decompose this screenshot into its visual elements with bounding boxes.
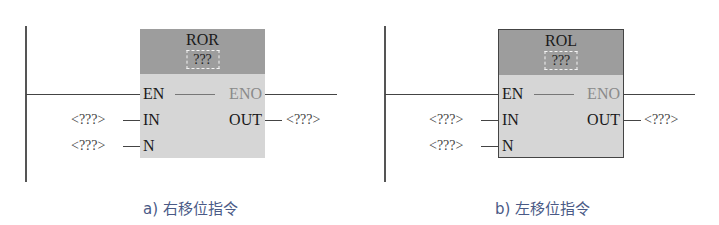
in-pin: IN	[502, 111, 519, 129]
out-operand[interactable]: <???>	[644, 112, 678, 128]
out-pin: OUT	[587, 111, 620, 129]
n-pin: N	[143, 137, 155, 155]
in-operand[interactable]: <???>	[71, 112, 105, 128]
en-eno-link	[534, 94, 574, 95]
eno-pin: ENO	[229, 85, 262, 103]
in-operand[interactable]: <???>	[429, 112, 463, 128]
caption: b) 左移位指令	[495, 197, 590, 218]
in-input-wire	[123, 120, 140, 121]
block-header: ROL ???	[499, 30, 623, 75]
block-header: ROR ???	[140, 29, 265, 74]
en-input-wire	[26, 94, 140, 95]
rol-diagram: <???> <???> ROL ??? EN ENO IN OUT N <???…	[359, 0, 718, 225]
n-operand[interactable]: <???>	[71, 138, 105, 154]
en-eno-link	[175, 94, 215, 95]
n-input-wire	[481, 146, 498, 147]
rol-function-block[interactable]: ROL ??? EN ENO IN OUT N	[498, 29, 624, 158]
in-pin: IN	[143, 111, 160, 129]
ror-diagram: <???> <???> ROR ??? EN ENO IN OUT N <???…	[0, 0, 359, 225]
n-operand[interactable]: <???>	[429, 138, 463, 154]
n-input-wire	[123, 146, 140, 147]
en-pin: EN	[502, 85, 523, 103]
n-pin: N	[502, 137, 514, 155]
left-power-rail	[25, 26, 27, 182]
data-type-param[interactable]: ???	[545, 51, 578, 70]
eno-output-wire	[624, 94, 695, 95]
in-input-wire	[481, 120, 498, 121]
instruction-name: ROR	[140, 30, 265, 50]
out-pin: OUT	[229, 111, 262, 129]
instruction-name: ROL	[499, 31, 623, 51]
en-input-wire	[385, 94, 498, 95]
ror-function-block[interactable]: ROR ??? EN ENO IN OUT N	[140, 29, 265, 158]
left-power-rail	[384, 26, 386, 182]
caption: a) 右移位指令	[143, 197, 238, 218]
out-output-wire	[265, 120, 282, 121]
eno-output-wire	[265, 94, 337, 95]
out-output-wire	[624, 120, 641, 121]
data-type-param[interactable]: ???	[186, 50, 219, 69]
en-pin: EN	[143, 85, 164, 103]
eno-pin: ENO	[587, 85, 620, 103]
out-operand[interactable]: <???>	[286, 112, 320, 128]
